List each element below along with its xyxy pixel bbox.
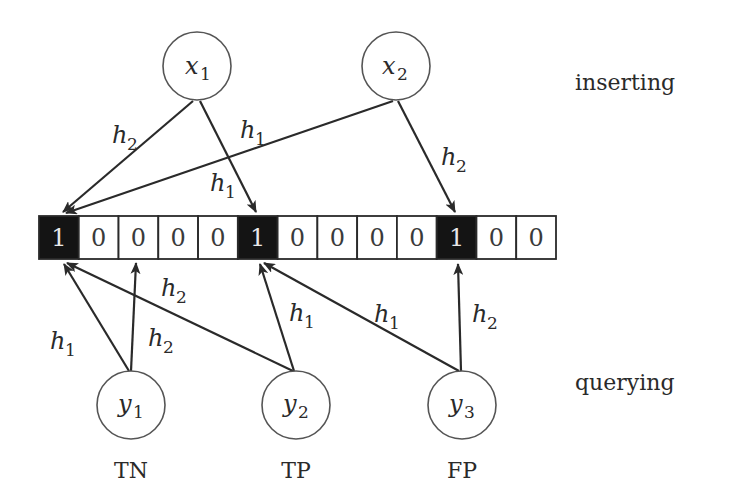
bit-cell: 1 bbox=[437, 216, 477, 259]
svg-text:h: h bbox=[472, 300, 487, 328]
edge-y3-bit10 bbox=[458, 264, 461, 371]
label-y3-bit5: h 1 bbox=[374, 300, 400, 333]
label-y2-bit5: h 1 bbox=[289, 299, 315, 332]
svg-text:h: h bbox=[148, 324, 163, 352]
bit-value: 0 bbox=[131, 224, 146, 252]
node-y1-var: y bbox=[117, 390, 132, 418]
svg-text:1: 1 bbox=[65, 340, 76, 360]
node-y2-var: y bbox=[282, 390, 297, 418]
phase-label-inserting: inserting bbox=[575, 70, 675, 95]
outcome-label-y1: TN bbox=[114, 458, 148, 483]
bit-value: 0 bbox=[489, 224, 504, 252]
svg-text:h: h bbox=[374, 300, 389, 328]
svg-text:h: h bbox=[161, 274, 176, 302]
bit-cell: 0 bbox=[79, 216, 119, 259]
node-x1-var: x bbox=[185, 52, 199, 80]
node-y2-sub: 2 bbox=[298, 402, 309, 422]
bit-cell: 0 bbox=[357, 216, 397, 259]
svg-text:h: h bbox=[289, 299, 304, 327]
outcome-label-y3: FP bbox=[447, 458, 477, 483]
svg-text:1: 1 bbox=[255, 129, 266, 149]
edge-y1-bit2 bbox=[131, 263, 136, 371]
node-y3-sub: 3 bbox=[464, 402, 475, 422]
svg-text:1: 1 bbox=[304, 312, 315, 332]
node-y1-sub: 1 bbox=[133, 402, 144, 422]
svg-text:2: 2 bbox=[176, 287, 187, 307]
bit-value: 0 bbox=[91, 224, 106, 252]
svg-text:1: 1 bbox=[389, 313, 400, 333]
svg-text:2: 2 bbox=[127, 134, 138, 154]
bloom-filter-diagram: 1000010000100 x 1 x 2 y 1 y 2 y 3 TN TP … bbox=[0, 0, 731, 503]
svg-text:h: h bbox=[240, 116, 255, 144]
node-x1: x 1 bbox=[163, 32, 231, 100]
bit-cell: 0 bbox=[198, 216, 238, 259]
phase-label-querying: querying bbox=[575, 370, 675, 395]
query-edges bbox=[64, 263, 461, 371]
node-y3: y 3 bbox=[428, 371, 496, 439]
bit-value: 1 bbox=[250, 224, 265, 252]
label-x1-bit0: h 2 bbox=[112, 121, 138, 154]
bit-value: 0 bbox=[210, 224, 225, 252]
label-y1-bit2: h 2 bbox=[148, 324, 174, 357]
bit-cell: 0 bbox=[476, 216, 516, 259]
svg-text:2: 2 bbox=[487, 313, 498, 333]
node-x1-sub: 1 bbox=[200, 64, 211, 84]
bit-cell: 0 bbox=[516, 216, 556, 259]
svg-text:1: 1 bbox=[225, 182, 236, 202]
bit-value: 0 bbox=[528, 224, 543, 252]
bit-cell: 0 bbox=[397, 216, 437, 259]
bit-value: 0 bbox=[330, 224, 345, 252]
label-x1-bit5: h 1 bbox=[210, 169, 236, 202]
label-x2-bit0: h 1 bbox=[240, 116, 266, 149]
svg-text:h: h bbox=[441, 143, 456, 171]
svg-text:2: 2 bbox=[456, 156, 467, 176]
label-y3-bit10: h 2 bbox=[472, 300, 498, 333]
node-x2-sub: 2 bbox=[397, 64, 408, 84]
svg-text:2: 2 bbox=[163, 337, 174, 357]
svg-text:h: h bbox=[210, 169, 225, 197]
bit-cell: 0 bbox=[158, 216, 198, 259]
svg-text:h: h bbox=[112, 121, 127, 149]
label-y2-bit0: h 2 bbox=[161, 274, 187, 307]
svg-text:h: h bbox=[50, 327, 65, 355]
insert-edges bbox=[63, 101, 455, 213]
bit-cell: 0 bbox=[119, 216, 159, 259]
bit-value: 1 bbox=[51, 224, 66, 252]
bit-value: 0 bbox=[369, 224, 384, 252]
edge-x1-bit0 bbox=[63, 101, 193, 212]
node-y2: y 2 bbox=[262, 371, 330, 439]
edge-y2-bit0 bbox=[67, 263, 293, 371]
node-y1: y 1 bbox=[97, 371, 165, 439]
bit-array: 1000010000100 bbox=[39, 216, 556, 259]
bit-value: 1 bbox=[449, 224, 464, 252]
bit-cell: 0 bbox=[278, 216, 318, 259]
bit-cell: 0 bbox=[317, 216, 357, 259]
bit-value: 0 bbox=[171, 224, 186, 252]
outcome-label-y2: TP bbox=[281, 458, 311, 483]
label-y1-bit0: h 1 bbox=[50, 327, 76, 360]
bit-cell: 1 bbox=[39, 216, 79, 259]
node-x2: x 2 bbox=[362, 32, 430, 100]
bit-cell: 1 bbox=[238, 216, 278, 259]
label-x2-bit10: h 2 bbox=[441, 143, 467, 176]
bit-value: 0 bbox=[409, 224, 424, 252]
bit-value: 0 bbox=[290, 224, 305, 252]
node-x2-var: x bbox=[382, 52, 396, 80]
node-y3-var: y bbox=[448, 390, 463, 418]
